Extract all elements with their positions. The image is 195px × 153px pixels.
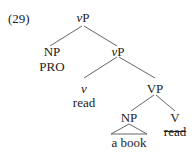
example-number: (29): [8, 11, 30, 27]
node-label: v: [81, 81, 87, 96]
node-label-suffix: P: [82, 10, 89, 25]
node-spec-content: PRO: [39, 60, 64, 73]
node-V-head: V: [170, 111, 179, 124]
node-v-head: v: [81, 82, 87, 95]
node-object-NP: NP: [121, 111, 138, 124]
node-root-vP: vP: [76, 11, 89, 24]
node-object-content: a book: [111, 136, 146, 149]
node-spec-NP: NP: [44, 45, 61, 58]
syntax-tree: (29) vP NP PRO vP v read VP NP a book V …: [0, 0, 195, 153]
node-vbar-vP: vP: [111, 45, 124, 58]
node-V-content-deleted: read: [164, 125, 186, 138]
node-VP: VP: [147, 82, 164, 95]
node-v-content: read: [73, 96, 95, 109]
node-label-suffix: P: [117, 44, 124, 59]
